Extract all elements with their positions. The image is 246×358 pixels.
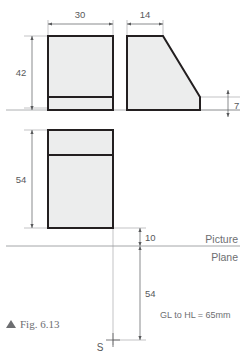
label-side-width: 14 <box>140 9 151 20</box>
figure-caption-text: Fig. 6.13 <box>20 318 59 330</box>
label-front-height: 42 <box>16 67 27 78</box>
label-picture: Picture <box>205 233 238 245</box>
triangle-up-icon <box>6 320 16 328</box>
label-plane: Plane <box>211 251 238 263</box>
label-plan-depth: 54 <box>16 174 27 185</box>
front-elevation-outline <box>48 36 113 110</box>
label-sp-distance: 54 <box>145 288 156 299</box>
side-elevation-outline <box>127 36 200 110</box>
label-gl-to-hl-note: GL to HL = 65mm <box>160 310 231 320</box>
plan-view-outline <box>48 130 113 228</box>
technical-drawing-figure: 30 14 42 54 7 10 54 Picture Plane GL to … <box>0 0 246 358</box>
figure-caption: Fig. 6.13 <box>6 318 59 330</box>
label-pp-offset: 10 <box>145 232 156 243</box>
station-point-marker <box>106 333 120 347</box>
label-station-point: S <box>97 342 104 353</box>
label-right-small: 7 <box>234 100 239 111</box>
label-front-width: 30 <box>75 9 86 20</box>
